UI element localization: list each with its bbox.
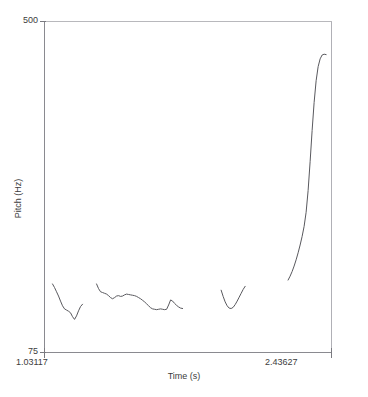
plot-frame bbox=[45, 22, 332, 353]
x-axis-max-tick-label: 2.43627 bbox=[265, 357, 298, 368]
x-axis-min-tick-label: 1.03117 bbox=[16, 357, 48, 368]
pitch-segment-3 bbox=[221, 286, 245, 308]
pitch-contour-figure: 500 75 1.03117 2.43627 Time (s) Pitch (H… bbox=[0, 0, 368, 397]
axis-ticks bbox=[40, 22, 332, 358]
y-axis-min-tick-label: 75 bbox=[12, 346, 38, 357]
y-axis-title: Pitch (Hz) bbox=[13, 169, 24, 229]
pitch-segment-2 bbox=[97, 284, 183, 310]
plot-canvas bbox=[0, 0, 368, 397]
pitch-segment-1 bbox=[53, 284, 83, 319]
pitch-curve-group bbox=[53, 54, 327, 319]
pitch-segment-4 bbox=[288, 54, 326, 280]
x-axis-title: Time (s) bbox=[0, 371, 368, 382]
y-axis-max-tick-label: 500 bbox=[12, 15, 38, 26]
